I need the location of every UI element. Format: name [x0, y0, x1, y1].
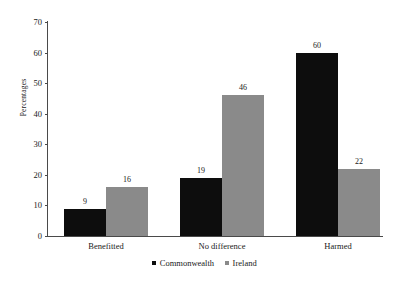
- bar-group: 916: [48, 22, 164, 236]
- y-axis-tick-label: 40: [16, 110, 42, 119]
- bar-value-label: 16: [106, 176, 148, 184]
- bar-group: 6022: [280, 22, 396, 236]
- bar-chart: Percentages 010203040506070 91619466022 …: [0, 0, 409, 281]
- y-axis-tick-label: 20: [16, 171, 42, 180]
- square-marker-gray-icon: [225, 261, 229, 265]
- bar-value-label: 9: [64, 198, 106, 206]
- square-marker-black-icon: [152, 261, 156, 265]
- plot-area: 91619466022: [48, 22, 383, 236]
- y-axis-title: Percentages: [19, 63, 28, 133]
- legend-label: Commonwealth: [160, 259, 214, 268]
- bar-slot: 9: [64, 22, 106, 236]
- bar-slot: 46: [222, 22, 264, 236]
- bar-groups: 91619466022: [48, 22, 383, 236]
- y-axis-tick-label: 10: [16, 201, 42, 210]
- legend-label: Ireland: [233, 259, 257, 268]
- bar-value-label: 60: [296, 42, 338, 50]
- x-axis-category-label: Harmed: [280, 242, 396, 251]
- bar-group: 1946: [164, 22, 280, 236]
- y-axis-tick-label: 0: [16, 232, 42, 241]
- bar-value-label: 46: [222, 84, 264, 92]
- y-axis-tick-label: 60: [16, 49, 42, 58]
- bar: [296, 53, 338, 236]
- x-axis-category-label: No difference: [164, 242, 280, 251]
- x-axis-category-label: Benefitted: [48, 242, 164, 251]
- y-axis-tick-label: 30: [16, 140, 42, 149]
- bar-value-label: 22: [338, 158, 380, 166]
- bar: [180, 178, 222, 236]
- bar: [106, 187, 148, 236]
- bar: [222, 95, 264, 236]
- legend-item-commonwealth: Commonwealth: [152, 259, 214, 268]
- bar: [64, 209, 106, 237]
- bar: [338, 169, 380, 236]
- y-axis-tick-mark: [45, 236, 48, 237]
- bar-slot: 16: [106, 22, 148, 236]
- y-axis-tick-label: 50: [16, 79, 42, 88]
- x-axis-line: [47, 236, 383, 237]
- legend-item-ireland: Ireland: [225, 259, 257, 268]
- bar-slot: 19: [180, 22, 222, 236]
- bar-value-label: 19: [180, 167, 222, 175]
- y-axis-tick-label: 70: [16, 18, 42, 27]
- chart-legend: Commonwealth Ireland: [0, 259, 409, 268]
- bar-slot: 22: [338, 22, 380, 236]
- bar-slot: 60: [296, 22, 338, 236]
